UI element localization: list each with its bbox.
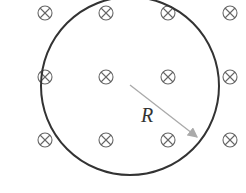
field-into-page-icons — [38, 6, 237, 147]
field-region-circle — [41, 0, 219, 175]
diagram-canvas — [0, 0, 246, 193]
radius-label: R — [141, 104, 153, 127]
